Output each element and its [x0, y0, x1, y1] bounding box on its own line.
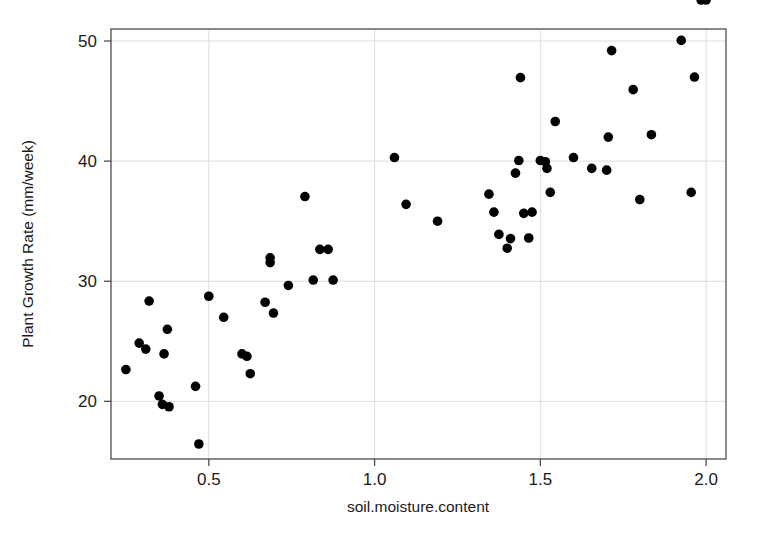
data-point: [587, 164, 597, 174]
data-point: [121, 365, 131, 375]
data-point: [300, 192, 310, 202]
data-point: [164, 402, 174, 412]
data-point: [604, 132, 614, 142]
data-point: [569, 153, 579, 163]
data-point: [328, 275, 338, 285]
data-point: [401, 200, 411, 210]
data-point: [269, 308, 279, 318]
data-point: [484, 189, 494, 199]
data-point: [163, 324, 173, 334]
y-tick-label: 20: [78, 392, 97, 411]
data-point: [323, 245, 333, 255]
data-point: [489, 207, 499, 217]
data-point: [141, 344, 151, 354]
data-point: [433, 216, 443, 226]
data-point: [519, 209, 529, 219]
data-point: [607, 46, 617, 56]
y-tick-label: 50: [78, 32, 97, 51]
data-point: [265, 258, 275, 268]
data-point: [194, 439, 204, 449]
data-point: [506, 234, 516, 244]
data-point: [628, 85, 638, 95]
data-point: [308, 275, 318, 285]
data-point: [260, 297, 270, 307]
plot-canvas: 20304050 0.51.01.52.0 soil.moisture.cont…: [0, 0, 762, 551]
x-tick-label: 1.0: [363, 470, 387, 489]
data-point: [527, 207, 537, 217]
data-point: [219, 312, 229, 322]
x-tick-label: 1.5: [529, 470, 553, 489]
y-tick-label: 40: [78, 152, 97, 171]
data-point: [550, 117, 560, 127]
data-point: [191, 382, 201, 392]
data-point: [159, 349, 169, 359]
data-point: [144, 296, 154, 306]
data-point: [686, 188, 696, 198]
data-point: [315, 245, 325, 255]
x-tick-label: 2.0: [694, 470, 718, 489]
data-point: [514, 156, 524, 166]
data-point: [494, 230, 504, 240]
y-axis-title: Plant Growth Rate (mm/week): [19, 140, 36, 348]
data-point: [511, 168, 521, 178]
data-point: [242, 352, 252, 362]
data-point: [545, 188, 555, 198]
data-point: [542, 164, 552, 174]
y-tick-label: 30: [78, 272, 97, 291]
data-point: [635, 195, 645, 205]
data-point: [390, 153, 400, 163]
data-point: [602, 165, 612, 175]
x-axis-title: soil.moisture.content: [347, 498, 490, 515]
data-point: [284, 281, 294, 291]
data-point: [524, 233, 534, 243]
x-tick-label: 0.5: [197, 470, 221, 489]
data-point: [204, 291, 214, 301]
scatter-plot-figure: 20304050 0.51.01.52.0 soil.moisture.cont…: [0, 0, 762, 551]
data-point: [245, 369, 255, 379]
data-point: [647, 130, 657, 140]
data-point: [676, 36, 686, 46]
data-point: [690, 72, 700, 82]
data-point: [516, 73, 526, 83]
data-point: [502, 243, 512, 253]
figure-background: [0, 0, 762, 551]
data-point: [154, 391, 164, 401]
